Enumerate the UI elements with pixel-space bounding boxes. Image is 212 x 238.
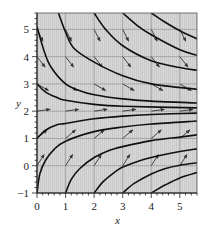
y-axis-label: y [15, 97, 21, 109]
x-tick-label: 1 [63, 200, 69, 212]
y-tick-label: −1 [17, 187, 29, 199]
y-tick-label: 3 [24, 78, 30, 90]
x-tick-label: 0 [34, 200, 40, 212]
x-tick-label: 5 [177, 200, 183, 212]
y-tick-label: 1 [24, 132, 30, 144]
y-tick-label: 2 [24, 105, 30, 117]
x-tick-label: 2 [91, 200, 97, 212]
y-tick-label: 4 [24, 51, 30, 63]
y-tick-label: 0 [24, 160, 30, 172]
direction-field-chart: 012345−1012345 x y [0, 0, 212, 238]
y-tick-label: 5 [24, 23, 30, 35]
x-tick-label: 3 [120, 200, 126, 212]
x-axis-label: x [114, 214, 120, 226]
x-tick-label: 4 [149, 200, 155, 212]
